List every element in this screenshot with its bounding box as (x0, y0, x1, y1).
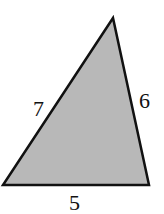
triangle-diagram: 7 6 5 (0, 0, 164, 214)
side-label-bottom: 5 (69, 190, 80, 214)
triangle-shape (3, 18, 149, 185)
side-label-left: 7 (33, 96, 44, 121)
side-label-right: 6 (139, 88, 150, 113)
